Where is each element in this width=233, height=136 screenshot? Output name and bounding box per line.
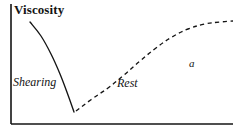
chart-title: Viscosity	[14, 3, 64, 16]
series-shearing-curve	[30, 22, 74, 112]
annotation-rest-label: Rest	[117, 77, 138, 89]
annotation-shearing-label: Shearing	[13, 76, 56, 88]
viscosity-chart-figure: Viscosity Shearing Rest a	[0, 0, 233, 136]
chart-plot-area	[0, 0, 233, 136]
series-rest-curve	[76, 21, 233, 111]
annotation-a-label: a	[189, 58, 195, 69]
